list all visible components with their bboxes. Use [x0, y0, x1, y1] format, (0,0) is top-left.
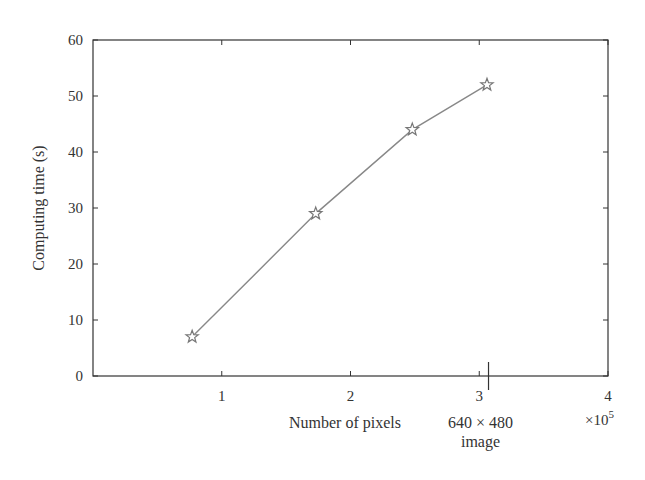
annotation-image: image: [461, 433, 500, 451]
x-tick-label: 4: [604, 388, 612, 404]
x-tick-label: 1: [218, 388, 226, 404]
star-marker-icon: [481, 78, 493, 90]
y-axis-label: Computing time (s): [30, 145, 48, 270]
x-multiplier: ×105: [585, 408, 614, 428]
y-tick-label: 40: [68, 144, 83, 160]
y-tick-label: 0: [76, 368, 84, 384]
y-tick-label: 50: [68, 88, 83, 104]
line-chart: 0102030405060 1234 Computing time (s) Nu…: [0, 0, 645, 480]
x-axis-label: Number of pixels: [289, 414, 401, 432]
y-tick-label: 30: [68, 200, 83, 216]
y-axis: 0102030405060: [68, 32, 608, 384]
y-tick-label: 10: [68, 312, 83, 328]
series-line: [192, 85, 487, 337]
x-tick-label: 2: [347, 388, 355, 404]
data-series: [186, 78, 493, 342]
y-tick-label: 20: [68, 256, 83, 272]
plot-area: [93, 40, 608, 376]
x-tick-label: 3: [476, 388, 484, 404]
x-axis: 1234: [218, 40, 612, 404]
annotation-resolution: 640 × 480: [448, 414, 513, 431]
y-tick-label: 60: [68, 32, 83, 48]
axes-frame: [93, 40, 608, 376]
